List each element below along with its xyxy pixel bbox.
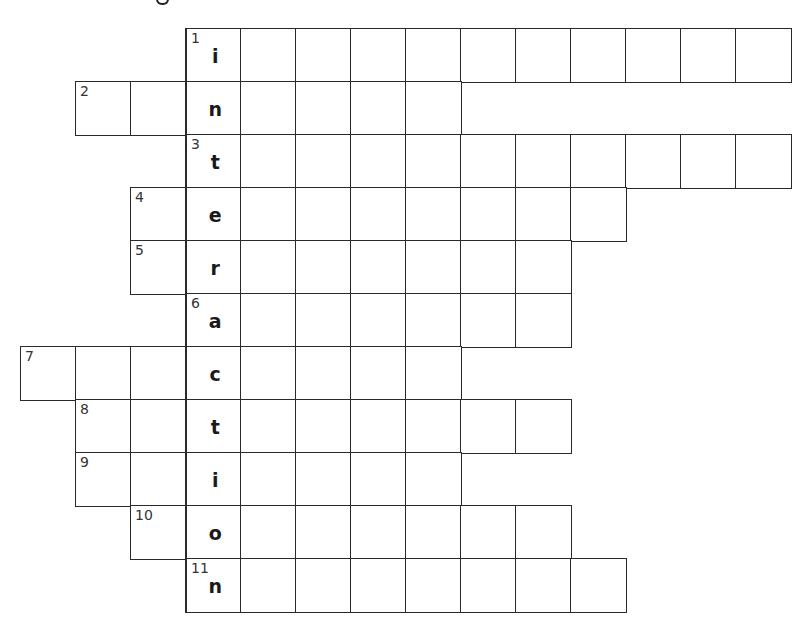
answer-cell[interactable]	[515, 505, 572, 560]
clue-number: 6	[191, 296, 200, 310]
clue-number: 4	[135, 190, 144, 204]
answer-cell[interactable]	[405, 134, 462, 189]
key-letter: n	[187, 577, 240, 596]
answer-cell[interactable]	[570, 187, 627, 242]
answer-cell[interactable]	[295, 558, 352, 613]
answer-cell[interactable]	[515, 28, 572, 83]
answer-cell[interactable]	[515, 558, 572, 613]
answer-cell[interactable]	[350, 399, 407, 454]
key-letter: e	[187, 206, 240, 225]
answer-cell[interactable]	[515, 293, 572, 348]
answer-cell[interactable]	[405, 28, 462, 83]
answer-cell[interactable]	[240, 505, 297, 560]
answer-cell[interactable]	[515, 399, 572, 454]
answer-cell[interactable]	[295, 28, 352, 83]
answer-cell[interactable]	[680, 28, 737, 83]
answer-cell[interactable]	[405, 346, 462, 401]
answer-cell[interactable]	[295, 346, 352, 401]
answer-cell[interactable]	[240, 28, 297, 83]
answer-cell[interactable]	[350, 28, 407, 83]
clue-number: 3	[191, 137, 200, 151]
answer-cell[interactable]	[240, 399, 297, 454]
answer-cell[interactable]	[295, 399, 352, 454]
answer-cell[interactable]	[460, 293, 517, 348]
answer-cell[interactable]	[295, 187, 352, 242]
answer-cell[interactable]: 9	[75, 452, 132, 507]
key-letter: o	[187, 524, 240, 543]
answer-cell[interactable]	[240, 452, 297, 507]
answer-cell[interactable]	[295, 134, 352, 189]
answer-cell[interactable]	[240, 240, 297, 295]
answer-cell[interactable]: 4	[130, 187, 187, 242]
answer-cell[interactable]	[130, 81, 187, 136]
key-letter-cell: 6a	[185, 293, 242, 348]
answer-cell[interactable]	[460, 399, 517, 454]
answer-cell[interactable]	[460, 28, 517, 83]
answer-cell[interactable]	[515, 187, 572, 242]
answer-cell[interactable]	[405, 293, 462, 348]
answer-cell[interactable]	[735, 134, 792, 189]
answer-cell[interactable]	[350, 293, 407, 348]
answer-cell[interactable]	[460, 187, 517, 242]
answer-cell[interactable]	[295, 81, 352, 136]
answer-cell[interactable]	[240, 293, 297, 348]
answer-cell[interactable]	[295, 240, 352, 295]
answer-cell[interactable]	[350, 346, 407, 401]
answer-cell[interactable]	[350, 81, 407, 136]
key-letter-cell: 11n	[185, 558, 242, 613]
answer-cell[interactable]	[680, 134, 737, 189]
answer-cell[interactable]	[570, 28, 627, 83]
answer-cell[interactable]	[625, 134, 682, 189]
answer-cell[interactable]	[240, 558, 297, 613]
answer-cell[interactable]	[240, 187, 297, 242]
answer-cell[interactable]	[405, 452, 462, 507]
key-letter-cell: n	[185, 81, 242, 136]
answer-cell[interactable]	[130, 452, 187, 507]
answer-cell[interactable]	[515, 240, 572, 295]
answer-cell[interactable]	[405, 399, 462, 454]
answer-cell[interactable]	[350, 240, 407, 295]
answer-cell[interactable]	[515, 134, 572, 189]
answer-cell[interactable]	[405, 187, 462, 242]
answer-cell[interactable]	[350, 134, 407, 189]
answer-cell[interactable]	[240, 346, 297, 401]
answer-cell[interactable]: 10	[130, 505, 187, 560]
answer-cell[interactable]	[405, 81, 462, 136]
answer-cell[interactable]	[460, 505, 517, 560]
key-letter-cell: o	[185, 505, 242, 560]
answer-cell[interactable]	[405, 505, 462, 560]
answer-cell[interactable]	[350, 452, 407, 507]
answer-cell[interactable]	[240, 134, 297, 189]
answer-cell[interactable]	[735, 28, 792, 83]
clue-number: 10	[135, 508, 153, 522]
answer-cell[interactable]	[405, 558, 462, 613]
answer-cell[interactable]	[570, 558, 627, 613]
answer-cell[interactable]	[130, 399, 187, 454]
answer-cell[interactable]	[295, 452, 352, 507]
answer-cell[interactable]	[350, 505, 407, 560]
answer-cell[interactable]: 7	[20, 346, 77, 401]
answer-cell[interactable]	[75, 346, 132, 401]
answer-cell[interactable]	[130, 346, 187, 401]
answer-cell[interactable]	[350, 187, 407, 242]
answer-cell[interactable]	[240, 81, 297, 136]
answer-cell[interactable]	[460, 240, 517, 295]
clue-number: 7	[25, 349, 34, 363]
clue-number: 2	[80, 84, 89, 98]
key-letter-cell: c	[185, 346, 242, 401]
answer-cell[interactable]	[350, 558, 407, 613]
key-letter-cell: 3t	[185, 134, 242, 189]
answer-cell[interactable]: 2	[75, 81, 132, 136]
answer-cell[interactable]	[460, 558, 517, 613]
crossword-grid: 1i2n3t4e5r6a7c8t9i10o11n	[0, 0, 804, 618]
answer-cell[interactable]: 8	[75, 399, 132, 454]
answer-cell[interactable]	[295, 505, 352, 560]
answer-cell[interactable]: 5	[130, 240, 187, 295]
answer-cell[interactable]	[405, 240, 462, 295]
answer-cell[interactable]	[460, 134, 517, 189]
answer-cell[interactable]	[625, 28, 682, 83]
key-letter-cell: r	[185, 240, 242, 295]
answer-cell[interactable]	[570, 134, 627, 189]
key-letter-cell: t	[185, 399, 242, 454]
answer-cell[interactable]	[295, 293, 352, 348]
